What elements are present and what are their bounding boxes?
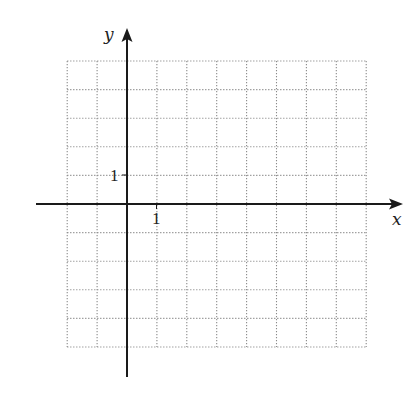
- coordinate-plane: y x 1 1: [0, 0, 420, 403]
- y-tick-label: 1: [110, 166, 119, 185]
- x-tick-label: 1: [152, 209, 161, 228]
- x-axis-label: x: [392, 209, 402, 229]
- axes: [36, 28, 403, 377]
- y-axis-label: y: [103, 24, 114, 44]
